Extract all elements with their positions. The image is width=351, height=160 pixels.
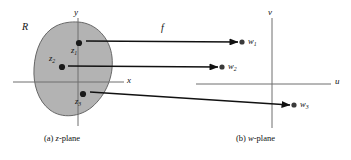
- point-label-w3: w3: [300, 100, 309, 109]
- caption-z-plane-suffix: -plane: [59, 133, 80, 143]
- map-arrow-z2-w2: [68, 66, 218, 67]
- point-label-w2-sub: 2: [234, 66, 237, 72]
- map-arrow-z3-w3: [90, 92, 290, 105]
- point-label-z3-sub: 3: [78, 101, 81, 107]
- point-label-w1-base: w: [248, 36, 254, 46]
- point-label-z1: z1: [71, 46, 77, 55]
- caption-w-plane-suffix: -plane: [254, 133, 275, 143]
- point-label-z2: z2: [49, 54, 55, 63]
- point-label-z2-sub: 2: [52, 58, 55, 64]
- u-axis-label: u: [335, 77, 340, 86]
- caption-z-plane: (a) z-plane: [44, 133, 80, 143]
- point-label-w3-sub: 3: [306, 104, 309, 110]
- caption-w-plane: (b) w-plane: [236, 133, 275, 143]
- map-arrow-z1-w1: [86, 41, 238, 42]
- point-label-w1-sub: 1: [254, 41, 257, 47]
- point-label-z3: z3: [75, 97, 81, 106]
- y-axis-label: y: [74, 8, 78, 17]
- region-r-shape: [34, 22, 112, 116]
- point-w3: [291, 102, 296, 107]
- point-z2: [59, 64, 65, 70]
- point-label-w2: w2: [228, 62, 237, 71]
- caption-z-plane-prefix: (a): [44, 133, 56, 143]
- point-label-w3-base: w: [300, 99, 306, 109]
- point-w1: [239, 39, 244, 44]
- complex-mapping-figure: R f x y u v z1 z2 z3 w1 w2 w3 (a) z-plan…: [0, 0, 351, 160]
- point-label-w2-base: w: [228, 61, 234, 71]
- v-axis-label: v: [268, 8, 272, 17]
- point-w2: [219, 64, 224, 69]
- point-label-w1: w1: [248, 37, 257, 46]
- x-axis-label: x: [127, 76, 131, 85]
- map-function-label-f: f: [161, 23, 164, 33]
- caption-w-plane-prefix: (b): [236, 133, 248, 143]
- region-label-r: R: [22, 22, 28, 32]
- point-label-z1-sub: 1: [74, 50, 77, 56]
